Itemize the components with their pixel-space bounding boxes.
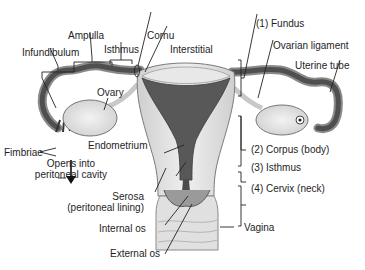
left-ovary (63, 100, 117, 136)
label-opens-line2: peritoneal cavity (30, 169, 112, 180)
label-infundibulum: Infundibulum (22, 47, 79, 58)
label-uterine-tube: Uterine tube (295, 60, 349, 71)
label-serosa: Serosa (peritoneal lining) (58, 191, 144, 213)
label-fimbriae: Fimbriae (4, 147, 43, 158)
label-ovarian-ligament: Ovarian ligament (273, 40, 349, 51)
label-opens-line1: Opens into (30, 158, 112, 169)
label-ampulla: Ampulla (68, 30, 104, 41)
label-ovary: Ovary (97, 87, 124, 98)
label-interstitial: Interstitial (170, 44, 213, 55)
label-cornu: Cornu (147, 30, 174, 41)
label-fundus: (1) Fundus (256, 18, 304, 29)
label-corpus: (2) Corpus (body) (251, 144, 329, 155)
label-serosa-line1: Serosa (58, 191, 144, 202)
label-cervix: (4) Cervix (neck) (251, 183, 325, 194)
label-internal-os: Internal os (99, 223, 146, 234)
label-opens-into-peritoneal-cavity: Opens into peritoneal cavity (30, 158, 112, 180)
label-isthmus-tube: Isthmus (104, 44, 139, 55)
label-endometrium: Endometrium (88, 140, 147, 151)
label-serosa-line2: (peritoneal lining) (58, 202, 144, 213)
label-vagina: Vagina (244, 222, 274, 233)
uterus-anatomy-diagram: Ampulla Cornu Infundibulum Isthmus Inter… (0, 0, 365, 270)
label-external-os: External os (110, 248, 160, 259)
label-isthmus-uterus: (3) Isthmus (251, 162, 301, 173)
uterus-region-brackets (238, 60, 246, 226)
right-ovarian-ligament (234, 88, 262, 108)
